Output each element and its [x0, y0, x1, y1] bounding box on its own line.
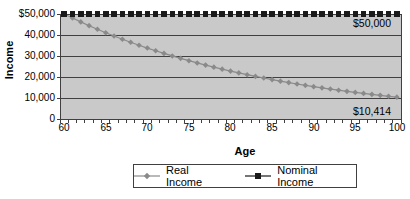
legend-label-real-income: Real Income — [166, 164, 227, 188]
x-tick-label-100: 100 — [383, 123, 410, 133]
x-tick-label-70: 70 — [133, 123, 161, 133]
x-tick-label-60: 60 — [50, 123, 78, 133]
x-tick-label-90: 90 — [300, 123, 328, 133]
legend: Real Income Nominal Income — [133, 164, 357, 188]
x-tick-label-65: 65 — [92, 123, 120, 133]
nominal-income-square-marker-icon — [245, 171, 271, 181]
x-tick-label-80: 80 — [216, 123, 244, 133]
y-tick-label-40000: 40,000 — [0, 30, 55, 40]
real-income-diamond-marker-icon — [134, 171, 160, 181]
x-axis-title: Age — [235, 145, 256, 157]
legend-item-nominal-income: Nominal Income — [245, 164, 356, 188]
x-tick-label-75: 75 — [175, 123, 203, 133]
y-tick-label-10000: 10,000 — [0, 93, 55, 103]
y-tick-label-30000: 30,000 — [0, 51, 55, 61]
x-tick-label-95: 95 — [341, 123, 369, 133]
annotation-real-income-value: $10,414 — [353, 105, 391, 117]
income-vs-age-chart: Income $50,000 40,000 30,000 20,000 10,0… — [0, 0, 410, 199]
legend-item-real-income: Real Income — [134, 164, 227, 188]
annotation-nominal-income-value: $50,000 — [353, 17, 391, 29]
y-tick-label-50000: $50,000 — [0, 9, 55, 19]
x-tick-label-85: 85 — [258, 123, 286, 133]
legend-label-nominal-income: Nominal Income — [277, 164, 356, 188]
y-tick-label-20000: 20,000 — [0, 72, 55, 82]
y-tick-label-0: 0 — [0, 114, 55, 124]
